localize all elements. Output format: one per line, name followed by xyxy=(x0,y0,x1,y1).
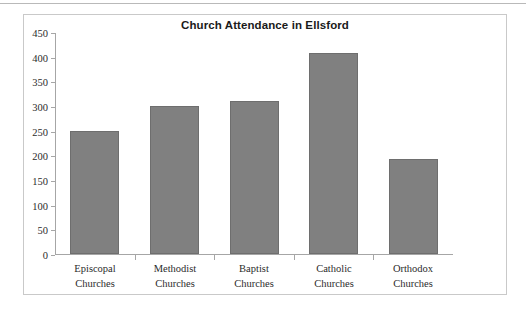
x-axis-label-line: Episcopal xyxy=(55,261,135,276)
page-top-rule xyxy=(0,3,526,4)
bar xyxy=(70,131,119,254)
x-axis-label: MethodistChurches xyxy=(135,261,215,291)
x-axis-label-line: Churches xyxy=(373,276,453,291)
x-tick xyxy=(135,255,136,260)
y-tick-label: 300 xyxy=(32,102,48,113)
bar xyxy=(230,101,279,254)
bar xyxy=(309,53,358,254)
x-axis-label-line: Orthodox xyxy=(373,261,453,276)
x-axis-label-line: Baptist xyxy=(214,261,294,276)
y-tick xyxy=(51,255,55,256)
x-axis-label: BaptistChurches xyxy=(214,261,294,291)
y-tick-label: 450 xyxy=(32,28,48,39)
bar xyxy=(150,106,199,254)
chart-container: Church Attendance in Ellsford 0501001502… xyxy=(23,14,507,295)
chart-title: Church Attendance in Ellsford xyxy=(24,19,506,31)
x-axis-label: OrthodoxChurches xyxy=(373,261,453,291)
x-axis-label-line: Churches xyxy=(214,276,294,291)
y-tick-label: 350 xyxy=(32,77,48,88)
y-tick-label: 250 xyxy=(32,126,48,137)
x-axis-line xyxy=(55,254,453,255)
x-tick xyxy=(373,255,374,260)
plot-area: 050100150200250300350400450 xyxy=(55,33,453,255)
x-axis-label: EpiscopalChurches xyxy=(55,261,135,291)
y-tick-label: 150 xyxy=(32,176,48,187)
bar-series xyxy=(55,33,453,254)
x-axis-label-line: Churches xyxy=(55,276,135,291)
x-tick xyxy=(214,255,215,260)
y-tick-label: 100 xyxy=(32,200,48,211)
y-tick-label: 200 xyxy=(32,151,48,162)
y-tick-label: 0 xyxy=(43,250,48,261)
x-tick xyxy=(294,255,295,260)
x-axis-label-line: Catholic xyxy=(294,261,374,276)
y-tick-label: 400 xyxy=(32,52,48,63)
x-axis-label-line: Churches xyxy=(294,276,374,291)
x-axis-labels: EpiscopalChurchesMethodistChurchesBaptis… xyxy=(55,261,453,301)
x-axis-label-line: Churches xyxy=(135,276,215,291)
x-axis-label-line: Methodist xyxy=(135,261,215,276)
bar xyxy=(389,159,438,254)
y-tick-label: 50 xyxy=(38,225,49,236)
x-axis-label: CatholicChurches xyxy=(294,261,374,291)
